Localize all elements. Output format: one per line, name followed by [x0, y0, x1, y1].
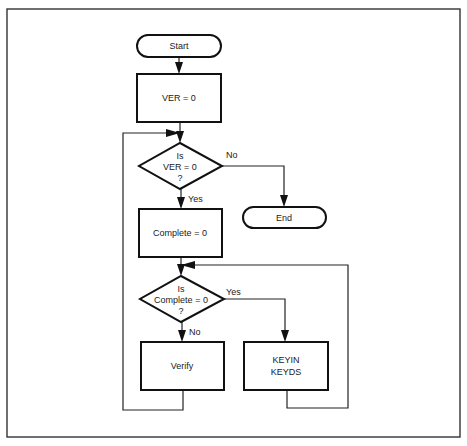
keyin-process: KEYIN KEYDS [244, 342, 328, 390]
keyin-line2: KEYDS [271, 367, 302, 377]
ver-check-line3: ? [177, 173, 182, 183]
start-label: Start [169, 41, 189, 51]
ver-check-no-label: No [226, 150, 238, 160]
start-terminal: Start [137, 35, 221, 57]
complete-check-line1: Is [177, 284, 185, 294]
complete-init-label: Complete = 0 [153, 228, 207, 238]
ver-init-label: VER = 0 [162, 93, 196, 103]
keyin-line1: KEYIN [272, 355, 299, 365]
complete-check-line3: ? [178, 306, 183, 316]
arrow-down-icon [281, 330, 289, 342]
arrow-down-icon [175, 62, 183, 74]
verify-process: Verify [141, 342, 224, 390]
ver-init-process: VER = 0 [137, 74, 221, 122]
figure-frame [7, 9, 460, 437]
ver-check-line2: VER = 0 [163, 162, 197, 172]
complete-check-decision: Is Complete = 0 ? [140, 276, 224, 322]
end-terminal: End [243, 207, 326, 228]
ver-check-decision: Is VER = 0 ? [139, 143, 222, 189]
verify-label: Verify [171, 361, 194, 371]
complete-check-line2: Complete = 0 [154, 295, 208, 305]
ver-check-yes-label: Yes [188, 194, 203, 204]
flowchart: Start VER = 0 Is VER = 0 ? No Yes End Co… [0, 0, 467, 446]
arrow-down-icon [178, 330, 186, 342]
end-label: End [276, 213, 292, 223]
complete-check-yes-label: Yes [226, 287, 241, 297]
arrow-down-icon [177, 197, 185, 209]
arrow-down-icon [280, 195, 288, 207]
ver-check-line1: Is [176, 151, 184, 161]
complete-init-process: Complete = 0 [139, 209, 222, 257]
complete-check-no-label: No [189, 327, 201, 337]
